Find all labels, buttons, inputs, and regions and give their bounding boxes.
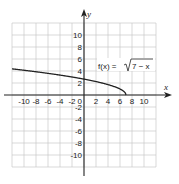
x-tick-label: 4 (106, 97, 111, 106)
x-tick-label: -6 (44, 97, 52, 106)
y-tick-label: -8 (75, 139, 83, 148)
y-tick-label: 4 (78, 67, 83, 76)
y-tick-label: -4 (75, 115, 83, 124)
x-tick-label: 8 (130, 97, 135, 106)
x-axis-label: x (163, 82, 168, 92)
function-graph: -10-8-6-4-20246810 108642-2-4-6-8-10 x y… (0, 0, 179, 184)
function-curve (12, 69, 126, 95)
y-tick-label: -6 (75, 127, 83, 136)
y-tick-label: 2 (78, 79, 83, 88)
y-axis-label: y (86, 9, 91, 19)
axes (4, 9, 172, 176)
y-tick-label: -10 (70, 151, 82, 160)
function-label: f(x) = 7 − x (97, 58, 155, 71)
x-tick-label: 6 (118, 97, 123, 106)
y-tick-label: -2 (75, 103, 83, 112)
function-label-radicand: 7 − x (132, 62, 150, 71)
x-tick-label: -10 (18, 97, 30, 106)
function-label-lhs: f(x) = (98, 62, 117, 71)
x-tick-label: 10 (140, 97, 149, 106)
x-tick-label: 2 (94, 97, 99, 106)
y-tick-label: 8 (78, 43, 83, 52)
y-tick-label: 6 (78, 55, 83, 64)
x-tick-label: -4 (56, 97, 64, 106)
curve-path (12, 69, 126, 95)
x-tick-label: -8 (32, 97, 40, 106)
y-tick-label: 10 (73, 31, 82, 40)
